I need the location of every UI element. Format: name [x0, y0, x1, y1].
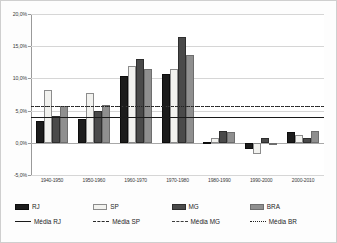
bar-sp — [295, 135, 303, 143]
legend-swatch-icon — [15, 204, 29, 210]
chart-legend: RJSPMGBRA Média RJMédia SPMédia MGMédia … — [15, 199, 328, 229]
bar-rj — [245, 143, 253, 149]
bar-group — [73, 14, 115, 175]
bar-mg — [136, 59, 144, 143]
legend-line-icon — [250, 221, 266, 222]
legend-line-icon — [15, 221, 31, 222]
bar-mg — [261, 138, 269, 143]
bar-group — [198, 14, 240, 175]
bar-group — [157, 14, 199, 175]
bar-sp — [170, 69, 178, 143]
bar-mg — [219, 131, 227, 143]
plot-area: 20,0%15,0%10,0%5,0%0,0%-5,0% — [31, 14, 324, 175]
y-axis-tick-mark — [28, 175, 31, 176]
y-axis-tick-label: 20,0% — [13, 11, 27, 17]
x-axis-tick-label: 1980-1990 — [198, 177, 240, 183]
legend-row-bars: RJSPMGBRA — [15, 199, 328, 214]
bar-sp — [128, 66, 136, 143]
bar-mg — [52, 116, 60, 143]
bar-rj — [36, 121, 44, 143]
legend-line-icon — [172, 221, 188, 222]
legend-item-mg-average[interactable]: Média MG — [172, 218, 250, 225]
bar-rj — [78, 119, 86, 143]
y-axis-tick-label: 0,0% — [16, 140, 27, 146]
x-axis-tick-label: 2000-2010 — [282, 177, 324, 183]
bar-group — [31, 14, 73, 175]
legend-swatch-icon — [93, 204, 107, 210]
y-axis-tick-label: -5,0% — [14, 172, 27, 178]
bar-bra — [144, 69, 152, 143]
legend-label: Média MG — [191, 218, 220, 225]
bar-sp — [253, 143, 261, 154]
bar-rj — [203, 142, 211, 144]
bar-mg — [94, 111, 102, 143]
legend-row-lines: Média RJMédia SPMédia MGMédia BR — [15, 214, 328, 229]
bar-bra — [60, 106, 68, 143]
legend-label: SP — [110, 203, 119, 210]
legend-item-mg[interactable]: MG — [172, 203, 250, 210]
bar-bra — [227, 132, 235, 142]
bar-rj — [120, 76, 128, 142]
x-axis-tick-label: 1960-1970 — [115, 177, 157, 183]
x-axis-tick-label: 1970-1980 — [157, 177, 199, 183]
bar-group — [240, 14, 282, 175]
x-axis-tick-label: 1950-1960 — [73, 177, 115, 183]
x-axis-labels: 1940-19501950-19601960-19701970-19801980… — [31, 177, 324, 183]
bar-sp — [211, 138, 219, 143]
legend-label: Média RJ — [34, 218, 61, 225]
bar-sp — [86, 93, 94, 143]
legend-label: BRA — [267, 203, 280, 210]
legend-item-rj-average[interactable]: Média RJ — [15, 218, 93, 225]
bar-bra — [269, 143, 277, 145]
y-axis-tick-label: 5,0% — [16, 108, 27, 114]
bar-mg — [303, 138, 311, 143]
bar-bra — [102, 105, 110, 143]
legend-label: Média SP — [112, 218, 140, 225]
bar-rj — [162, 74, 170, 143]
x-axis-tick-label: 1940-1950 — [31, 177, 73, 183]
bar-group — [282, 14, 324, 175]
chart-container: 20,0%15,0%10,0%5,0%0,0%-5,0% 1940-195019… — [0, 0, 337, 243]
bar-group — [115, 14, 157, 175]
bar-bra — [186, 55, 194, 143]
legend-item-rj[interactable]: RJ — [15, 203, 93, 210]
bar-bra — [311, 131, 319, 143]
legend-line-icon — [93, 221, 109, 222]
y-axis-tick-label: 15,0% — [13, 43, 27, 49]
gridline — [31, 175, 324, 176]
legend-label: RJ — [32, 203, 40, 210]
legend-swatch-icon — [250, 204, 264, 210]
legend-item-bra[interactable]: BRA — [250, 203, 328, 210]
bars-layer — [31, 14, 324, 175]
bar-rj — [287, 132, 295, 143]
legend-item-sp-average[interactable]: Média SP — [93, 218, 171, 225]
legend-swatch-icon — [172, 204, 186, 210]
legend-item-br-average[interactable]: Média BR — [250, 218, 328, 225]
legend-label: Média BR — [269, 218, 297, 225]
bar-sp — [44, 90, 52, 143]
x-axis-tick-label: 1990-2000 — [240, 177, 282, 183]
legend-label: MG — [189, 203, 199, 210]
y-axis-tick-label: 10,0% — [13, 75, 27, 81]
bar-mg — [178, 37, 186, 143]
legend-item-sp[interactable]: SP — [93, 203, 171, 210]
